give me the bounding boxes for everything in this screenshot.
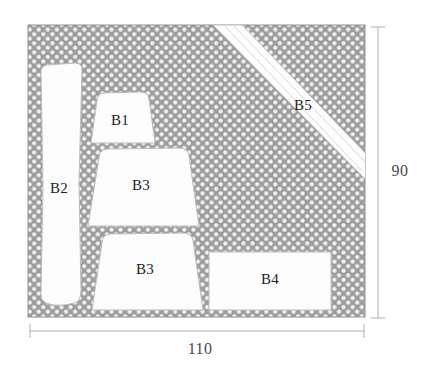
part-b3-upper-label: B3 — [132, 177, 150, 193]
width-dimension-label: 110 — [188, 340, 213, 357]
height-dimension: 90 — [371, 27, 408, 318]
part-b3-lower-label: B3 — [136, 261, 154, 277]
figure-canvas: B1 B2 B3 B3 B4 B5 110 90 — [0, 0, 424, 369]
width-dimension: 110 — [30, 324, 364, 357]
part-b4-label: B4 — [261, 271, 279, 287]
nesting-diagram: B1 B2 B3 B3 B4 B5 110 90 — [0, 0, 424, 369]
height-dimension-label: 90 — [392, 162, 409, 179]
part-b1-label: B1 — [111, 112, 129, 128]
part-b5-label: B5 — [294, 97, 312, 113]
part-b2-label: B2 — [50, 180, 68, 196]
